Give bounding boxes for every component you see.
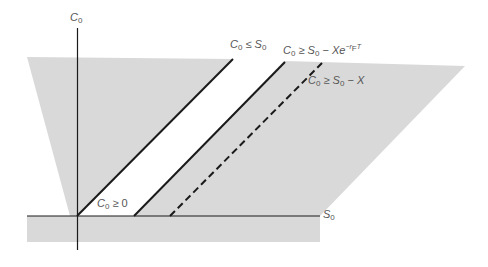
label-lower-bound-zero: C0 ≥ 0 bbox=[97, 197, 128, 209]
y-axis-label: C0 bbox=[70, 11, 82, 23]
label-intrinsic-lower-bound: C0 ≥ S0 − X bbox=[308, 74, 364, 86]
label-upper-bound: C0 ≤ S0 bbox=[230, 38, 266, 50]
shaded-region-below-axis bbox=[27, 216, 320, 242]
label-discounted-lower-bound: C0 ≥ S0 − Xe−rFT bbox=[283, 44, 361, 56]
x-axis-label: S0 bbox=[323, 208, 335, 220]
